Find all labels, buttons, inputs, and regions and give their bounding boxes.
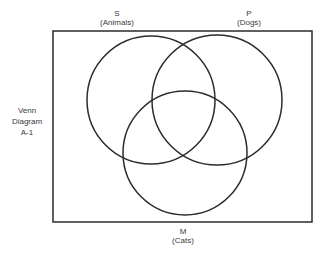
set-circle-s: [87, 36, 215, 164]
set-label-m: M (Cats): [153, 227, 213, 245]
set-name-s: (Animals): [87, 18, 147, 27]
set-label-s: S (Animals): [87, 9, 147, 27]
set-circle-m: [123, 91, 247, 215]
set-label-p: P (Dogs): [219, 9, 279, 27]
diagram-title-line-2: Diagram: [2, 116, 52, 127]
diagram-title: Venn Diagram A-1: [2, 105, 52, 138]
set-name-m: (Cats): [153, 236, 213, 245]
set-letter-m: M: [153, 227, 213, 236]
set-name-p: (Dogs): [219, 18, 279, 27]
diagram-title-line-3: A-1: [2, 127, 52, 138]
set-letter-s: S: [87, 9, 147, 18]
universe-rectangle: [53, 31, 312, 222]
diagram-title-line-1: Venn: [2, 105, 52, 116]
set-letter-p: P: [219, 9, 279, 18]
